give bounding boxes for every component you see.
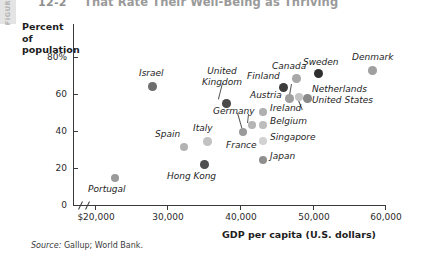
y-tick-label-0: 0 [34, 200, 67, 210]
y-tick-80 [73, 57, 78, 58]
data-label-belgium: Belgium [270, 116, 307, 127]
x-tick-label-20000: $20,000 [65, 212, 127, 222]
data-point-sweden [314, 69, 323, 78]
y-tick-label-80: 80% [34, 52, 67, 62]
data-label-canada: Canada [272, 61, 306, 72]
y-tick-40 [73, 131, 78, 132]
data-label-israel: Israel [139, 68, 164, 79]
data-label-austria: Austria [250, 90, 282, 101]
source-line: Source: Gallup; World Bank. [31, 241, 143, 250]
data-point-italy [203, 137, 212, 146]
data-point-singapore [259, 137, 267, 145]
data-label-united-states: United States [312, 95, 373, 106]
data-label-italy: Italy [193, 123, 213, 134]
x-axis-line [73, 205, 386, 206]
data-point-israel [148, 82, 157, 91]
y-tick-label-60: 60 [34, 89, 67, 99]
x-tick-30000 [167, 205, 168, 210]
data-point-germany [248, 121, 256, 129]
data-label-hong-kong: Hong Kong [167, 171, 216, 182]
y-axis-line [73, 24, 74, 206]
figure-header: 12-2 That Rate Their Well-Being as Thriv… [16, 0, 427, 13]
data-label-denmark: Denmark [352, 52, 393, 63]
y-axis-title: Percent of population [22, 21, 68, 56]
source-label: Source: [31, 241, 61, 250]
data-label-japan: Japan [270, 151, 295, 162]
data-point-belgium [259, 121, 267, 129]
x-tick-label-60000: 60,000 [355, 212, 417, 222]
data-label-germany: Germany [213, 106, 255, 117]
x-tick-50000 [313, 205, 314, 210]
x-tick-60000 [385, 205, 386, 210]
data-label-singapore: Singapore [270, 132, 316, 143]
data-point-france [239, 128, 247, 136]
y-tick-label-40: 40 [34, 126, 67, 136]
data-point-ireland [259, 108, 267, 116]
figure-tab: FIGURE [0, 0, 16, 24]
figure-scatter-plot: FIGURE 12-2 That Rate Their Well-Being a… [0, 0, 427, 259]
data-label-portugal: Portugal [88, 184, 126, 195]
data-point-japan [259, 156, 267, 164]
data-label-finland: Finland [247, 71, 280, 82]
data-label-netherlands: Netherlands [312, 84, 367, 95]
data-point-united-states [303, 94, 312, 103]
data-point-portugal [111, 174, 119, 182]
data-point-canada [292, 74, 301, 83]
x-tick-label-50000: 50,000 [283, 212, 345, 222]
data-label-spain: Spain [155, 129, 180, 140]
data-point-hong-kong [200, 160, 209, 169]
y-tick-20 [73, 168, 78, 169]
data-point-austria [285, 94, 294, 103]
data-point-spain [180, 143, 188, 151]
y-axis-title-line1: Percent of [22, 21, 63, 44]
data-label-ireland: Ireland [270, 103, 301, 114]
y-tick-60 [73, 94, 78, 95]
x-tick-label-30000: 30,000 [137, 212, 199, 222]
data-point-denmark [368, 66, 377, 75]
x-tick-40000 [240, 205, 241, 210]
x-tick-20000 [95, 205, 96, 210]
figure-title: That Rate Their Well-Being as Thriving [84, 0, 338, 9]
figure-number: 12-2 [38, 0, 67, 9]
figure-tab-label: FIGURE [4, 0, 12, 27]
data-label-united-kingdom: United Kingdom [198, 66, 246, 87]
source-text: Gallup; World Bank. [64, 241, 143, 250]
data-label-sweden: Sweden [303, 57, 339, 68]
y-tick-label-20: 20 [34, 163, 67, 173]
data-label-france: France [226, 140, 257, 151]
x-axis-title: GDP per capita (U.S. dollars) [222, 229, 376, 240]
x-tick-label-40000: 40,000 [210, 212, 272, 222]
data-point-netherlands [295, 93, 303, 101]
